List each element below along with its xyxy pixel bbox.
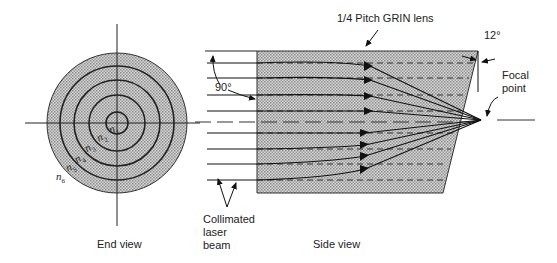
beam-label-line1: Collimated: [203, 213, 255, 226]
lens-label: 1/4 Pitch GRIN lens: [337, 12, 434, 25]
side-view-caption: Side view: [313, 238, 360, 251]
beam-label-line2: laser: [203, 226, 227, 239]
angle-12-label: 12°: [484, 29, 501, 42]
diagram-graphics: [0, 0, 557, 263]
beam-label-line3: beam: [203, 239, 231, 252]
side-view-lens: [195, 51, 535, 193]
focal-point-label-line2: point: [502, 82, 526, 95]
focal-point-label-line1: Focal: [502, 69, 529, 82]
angle-90-label: 90°: [215, 81, 232, 94]
grin-lens-diagram: n1 n2 n3 n4 n5 n6 End view Side view 1/4…: [0, 0, 557, 263]
end-view-caption: End view: [97, 238, 142, 251]
index-label-n6: n6: [56, 170, 65, 188]
